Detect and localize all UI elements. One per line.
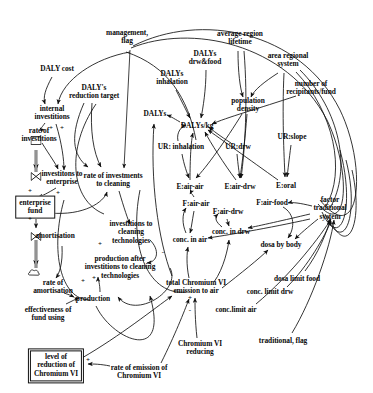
polarity-sign-s2: + xyxy=(60,124,64,132)
node-enterprise_fund[interactable]: enterprise fund xyxy=(15,196,55,219)
node-rate_of_emission[interactable]: rate of emission of Chromium VI xyxy=(111,364,168,381)
node-avg_region_lifetime[interactable]: average region lifetime xyxy=(217,30,263,47)
node-conc_in_air[interactable]: conc. in air xyxy=(173,236,208,244)
polarity-sign-s3: + xyxy=(28,187,32,195)
node-total_emission[interactable]: total Chromium VI emission to air xyxy=(166,279,226,296)
node-area_regional_system[interactable]: area regional system xyxy=(268,52,309,69)
node-daly_cost[interactable]: DALY cost xyxy=(40,65,74,73)
node-e_air_drw[interactable]: E:air-drw xyxy=(225,183,256,191)
node-management_flag[interactable]: management, flag xyxy=(106,29,148,46)
polarity-sign-s9: + xyxy=(92,274,96,282)
node-chromium_reducing[interactable]: Chromium VI reducing xyxy=(178,340,222,357)
node-f_air_air[interactable]: F:air-air xyxy=(183,200,210,208)
node-level_reduction[interactable]: level of reduction of Chromium VI xyxy=(30,350,82,381)
node-dalys_reduction[interactable]: DALY's reduction target xyxy=(69,84,119,101)
valve-investitons-to-enterprise xyxy=(31,167,42,185)
node-dalys_inhalation[interactable]: DALYs inhalation xyxy=(156,70,188,87)
node-effectiveness_fund[interactable]: effectiveness of fund using xyxy=(25,306,72,323)
node-num_recipitants[interactable]: number of recipitants/fund xyxy=(286,80,336,97)
node-e_air_air[interactable]: E:air-air xyxy=(176,183,203,191)
polarity-sign-s8: + xyxy=(81,277,85,285)
polarity-sign-s12: + xyxy=(86,356,90,364)
node-ur_drw[interactable]: UR:drw xyxy=(225,143,251,151)
polarity-sign-s11: - xyxy=(189,306,191,314)
polarity-sign-s4: + xyxy=(56,189,60,197)
system-dynamics-diagram: DALY costmanagement, flagDALY's reductio… xyxy=(0,0,373,393)
node-ur_inhalation[interactable]: UR: inhalation xyxy=(158,143,204,151)
polarity-sign-s7: - xyxy=(162,248,164,256)
node-rate_amortisation[interactable]: rate of amortisation xyxy=(33,279,73,296)
node-dosa_limit_food[interactable]: dosa limit food xyxy=(274,275,320,283)
polarity-sign-s1: + xyxy=(49,124,53,132)
polarity-sign-s6: + xyxy=(98,240,102,248)
node-production[interactable]: production xyxy=(76,295,110,303)
node-e_oral[interactable]: E:oral xyxy=(276,182,296,190)
node-f_air_food[interactable]: F:air-food xyxy=(256,199,288,207)
node-f_air_drw[interactable]: F:air-drw xyxy=(213,208,243,216)
node-population_density[interactable]: population density xyxy=(231,97,265,114)
node-ur_slope[interactable]: UR:slope xyxy=(278,133,307,141)
polarity-sign-s5: + xyxy=(28,215,32,223)
node-conc_limit_drw[interactable]: conc. limit drw xyxy=(247,288,294,296)
node-internal_investitions[interactable]: internal investitions xyxy=(34,105,69,122)
node-dalys_drw_food[interactable]: DALYs drw&food xyxy=(189,50,221,67)
node-traditional_flag[interactable]: traditional, flag xyxy=(259,337,307,345)
node-dosa_by_body[interactable]: dosa by body xyxy=(261,241,302,249)
polarity-sign-s10: + xyxy=(188,294,192,302)
node-conc_limit_air[interactable]: conc.limit air xyxy=(215,306,256,314)
node-amortisation[interactable]: amortisation xyxy=(35,232,75,240)
node-dalys_kg[interactable]: DALYs/kg xyxy=(181,122,214,130)
node-rate_inv_cleaning[interactable]: rate of investments to cleaning xyxy=(84,172,143,189)
node-factor_traditional[interactable]: factor traditional system xyxy=(309,196,352,221)
node-conc_in_drw[interactable]: conc. in drw xyxy=(212,228,250,236)
node-dalys[interactable]: DALYs xyxy=(144,110,167,118)
node-invest_clean_tech[interactable]: investitions to cleaning technologies xyxy=(110,220,153,245)
node-investitons_enterprise[interactable]: investitons to enterprise xyxy=(42,170,83,187)
